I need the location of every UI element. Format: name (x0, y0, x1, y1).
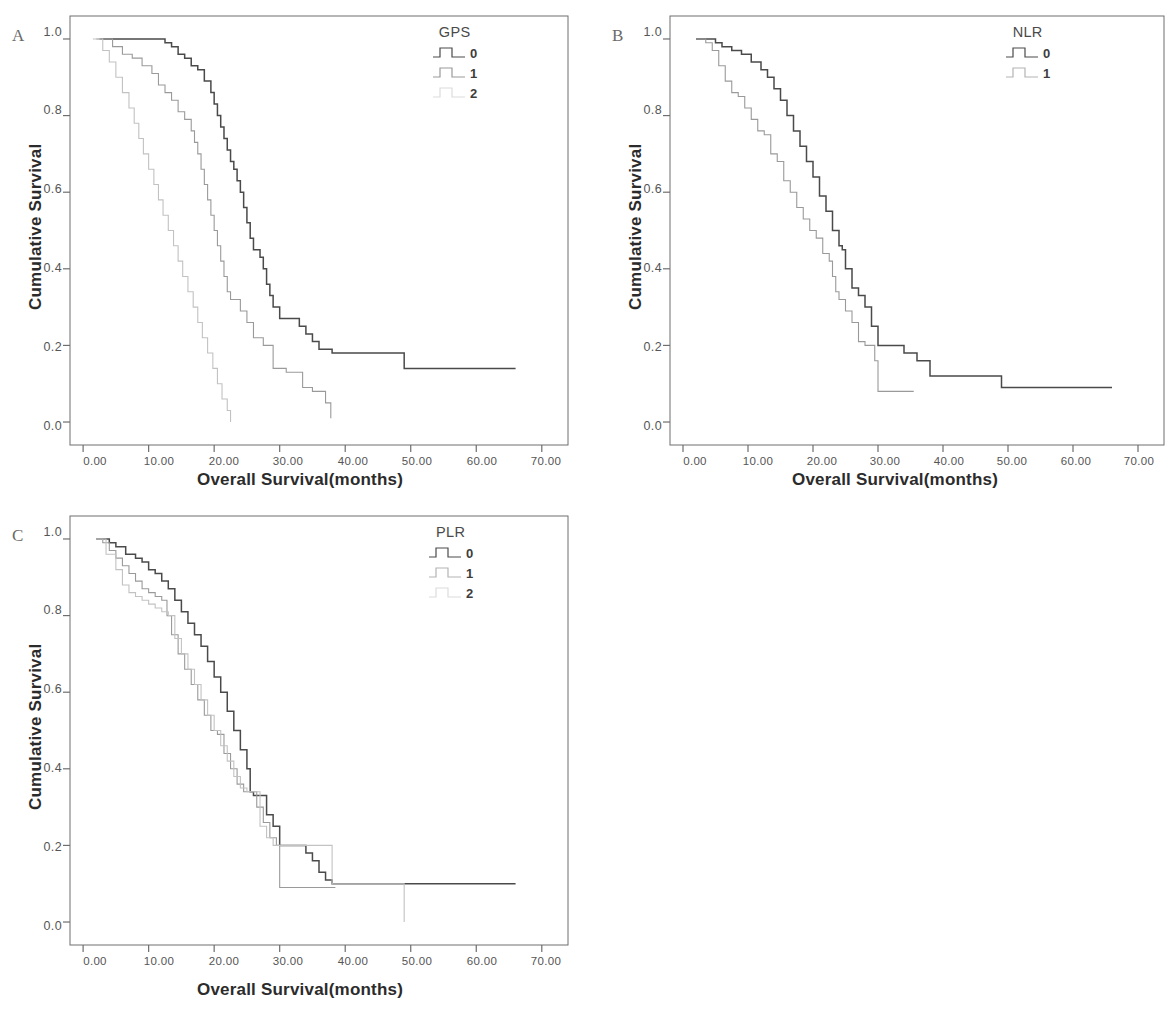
legend-item-gps-2[interactable]: 2 (432, 83, 477, 103)
legend-nlr: NLR 0 1 (1005, 24, 1050, 83)
legend-label-nlr-1: 1 (1043, 66, 1050, 81)
legend-item-plr-1[interactable]: 1 (428, 563, 473, 583)
plot-area-plr (0, 500, 590, 1019)
legend-item-nlr-0[interactable]: 0 (1005, 43, 1050, 63)
legend-item-gps-1[interactable]: 1 (432, 63, 477, 83)
legend-label-gps-2: 2 (470, 86, 477, 101)
panel-plr: C Cumulative Survival Overall Survival(m… (0, 500, 590, 1019)
legend-item-nlr-1[interactable]: 1 (1005, 63, 1050, 83)
panel-gps: A Cumulative Survival Overall Survival(m… (0, 0, 590, 500)
legend-item-plr-2[interactable]: 2 (428, 583, 473, 603)
plot-area-nlr (590, 0, 1174, 500)
legend-label-plr-0: 0 (466, 546, 473, 561)
legend-line-sample-1 (1005, 64, 1039, 82)
legend-line-sample-2 (432, 84, 466, 102)
legend-plr: PLR 0 1 2 (428, 524, 473, 603)
legend-title-nlr: NLR (1005, 24, 1050, 40)
legend-line-sample-1 (432, 64, 466, 82)
plot-area-gps (0, 0, 590, 500)
legend-label-gps-0: 0 (470, 46, 477, 61)
legend-label-plr-1: 1 (466, 566, 473, 581)
legend-line-sample-0 (428, 544, 462, 562)
legend-line-sample-2 (428, 584, 462, 602)
legend-label-plr-2: 2 (466, 586, 473, 601)
legend-item-gps-0[interactable]: 0 (432, 43, 477, 63)
legend-title-plr: PLR (428, 524, 473, 540)
legend-label-gps-1: 1 (470, 66, 477, 81)
panel-nlr: B Cumulative Survival Overall Survival(m… (590, 0, 1174, 500)
legend-gps: GPS 0 1 2 (432, 24, 477, 103)
legend-title-gps: GPS (432, 24, 477, 40)
legend-line-sample-1 (428, 564, 462, 582)
legend-label-nlr-0: 0 (1043, 46, 1050, 61)
legend-line-sample-0 (1005, 44, 1039, 62)
legend-item-plr-0[interactable]: 0 (428, 543, 473, 563)
legend-line-sample-0 (432, 44, 466, 62)
